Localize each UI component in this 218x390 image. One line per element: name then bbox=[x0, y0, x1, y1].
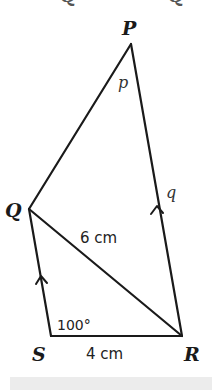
vertex-label-r: R bbox=[183, 343, 200, 365]
geometry-diagram: Q Q P Q S R p q 100° 6 cm 4 cm bbox=[0, 0, 218, 390]
bottom-gray-band bbox=[10, 377, 212, 390]
angle-label-q: q bbox=[166, 183, 176, 202]
edge-qs bbox=[29, 209, 51, 336]
top-cropped-fragment: Q Q bbox=[60, 0, 185, 6]
length-label-sr: 4 cm bbox=[86, 345, 123, 363]
edge-pq bbox=[29, 44, 131, 209]
top-fragment-q2: Q bbox=[168, 0, 185, 6]
top-fragment-q1: Q bbox=[60, 0, 77, 6]
vertex-label-s: S bbox=[32, 343, 46, 365]
length-label-qr: 6 cm bbox=[80, 229, 117, 247]
angle-label-p: p bbox=[118, 73, 128, 92]
vertex-label-q: Q bbox=[5, 199, 22, 221]
angle-label-s: 100° bbox=[57, 317, 91, 333]
vertex-label-p: P bbox=[121, 17, 137, 39]
